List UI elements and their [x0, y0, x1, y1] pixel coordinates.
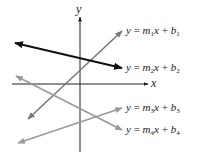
equation-label-3: y = m3x + b3: [126, 102, 180, 113]
y-axis-label: y: [76, 3, 81, 15]
equation-label-2: y = m2x + b2: [126, 62, 180, 73]
equation-label-1: y = m1x + b1: [126, 25, 180, 36]
equation-label-4: y = m4x + b4: [126, 124, 180, 135]
x-axis-label: x: [151, 77, 156, 89]
linear-functions-diagram: y x y = m1x + b1 y = m2x + b2 y = m3x + …: [0, 0, 197, 157]
